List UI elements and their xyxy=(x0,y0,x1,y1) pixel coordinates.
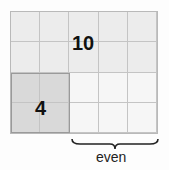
grid-cell xyxy=(128,42,157,72)
grid-cell xyxy=(99,12,128,42)
grid-cell xyxy=(99,103,128,133)
grid-cell xyxy=(128,103,157,133)
grid-cell xyxy=(128,12,157,42)
grid-cell xyxy=(69,73,98,103)
grid-cell xyxy=(11,42,40,72)
label-ten: 10 xyxy=(72,33,94,53)
grid-cell xyxy=(40,42,69,72)
grid-cell xyxy=(11,12,40,42)
grid-cell xyxy=(69,103,98,133)
area-grid xyxy=(10,11,158,134)
label-four: 4 xyxy=(35,98,46,118)
brace-label-even: even xyxy=(96,149,126,165)
grid-cell xyxy=(99,42,128,72)
grid-cell xyxy=(40,12,69,42)
grid-cell xyxy=(128,73,157,103)
grid-cell xyxy=(99,73,128,103)
